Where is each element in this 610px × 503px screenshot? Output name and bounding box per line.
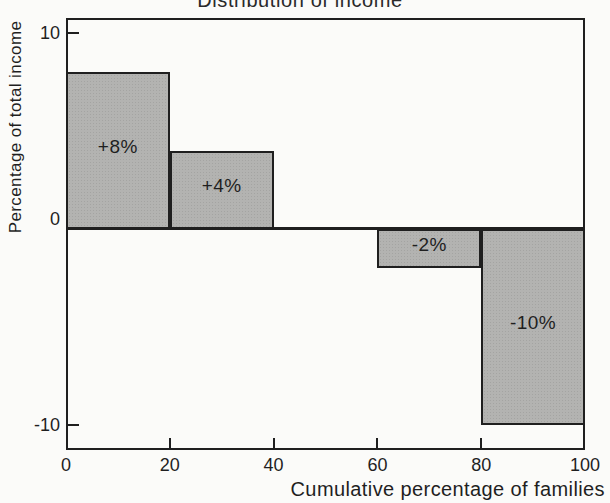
y-tick-label: -10 — [12, 414, 60, 436]
y-tick-label: 10 — [12, 22, 60, 44]
x-tick-label: 60 — [351, 454, 403, 476]
x-tick-label: 100 — [559, 454, 610, 476]
x-tick-mark — [480, 438, 482, 449]
income-distribution-chart: Distribution of income Percentage of tot… — [0, 0, 610, 503]
y-tick-label: 0 — [12, 208, 60, 230]
y-tick-mark — [68, 32, 79, 34]
bar-label: +8% — [98, 136, 138, 158]
x-tick-label: 0 — [40, 454, 92, 476]
x-tick-label: 40 — [248, 454, 300, 476]
x-axis-title: Cumulative percentage of families — [291, 477, 605, 501]
income-bar-80-100: -10% — [481, 229, 585, 425]
income-bar-20-40: +4% — [170, 151, 274, 230]
x-tick-mark — [169, 438, 171, 449]
income-bar-0-20: +8% — [66, 72, 170, 230]
y-tick-mark — [68, 424, 79, 426]
chart-title: Distribution of income — [140, 0, 460, 11]
x-tick-label: 80 — [455, 454, 507, 476]
x-tick-mark — [273, 438, 275, 449]
y-axis-title: Percentage of total income — [7, 19, 25, 235]
zero-axis-line — [66, 227, 585, 230]
bar-label: +4% — [202, 175, 242, 197]
income-bar-60-80: -2% — [377, 229, 481, 268]
x-tick-mark — [376, 438, 378, 449]
bar-label: -2% — [412, 234, 447, 256]
bar-label: -10% — [510, 312, 556, 334]
x-tick-label: 20 — [144, 454, 196, 476]
